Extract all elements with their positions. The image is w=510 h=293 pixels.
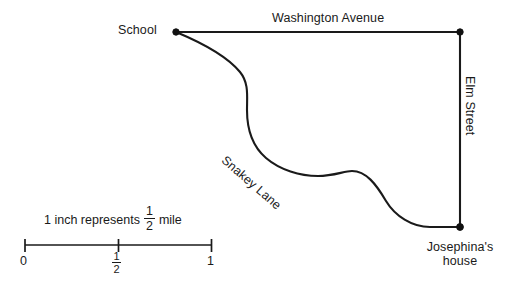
label-school: School [118,24,157,37]
label-washington-avenue: Washington Avenue [272,12,384,25]
label-josephinas-house-line1: Josephina's [427,240,494,254]
scale-tick-label-half: 1 2 [112,252,121,275]
scale-caption-fraction: 1 2 [144,205,155,232]
node-corner-washington-elm [457,29,463,35]
scale-tick-fraction-numerator: 1 [112,251,120,261]
label-elm-street: Elm Street [463,76,476,146]
scale-tick-label-0: 0 [20,254,27,268]
scale-caption-fraction-denominator: 2 [145,220,154,232]
map-figure: School Washington Avenue Elm Street Snak… [0,0,510,293]
node-josephinas-house [457,224,464,231]
scale-tick-fraction-half: 1 2 [112,251,121,274]
scale-tick-label-1: 1 [207,254,214,268]
scale-tick-fraction-denominator: 2 [112,264,120,274]
label-josephinas-house: Josephina's house [418,240,502,268]
label-josephinas-house-line2: house [443,254,478,268]
node-school [173,29,179,35]
road-snakey-lane [176,32,460,227]
scale-caption-after: mile [159,213,182,227]
scale-caption: 1 inch represents 1 2 mile [44,206,182,233]
scale-caption-fraction-numerator: 1 [145,205,154,217]
scale-caption-before: 1 inch represents [44,213,140,227]
